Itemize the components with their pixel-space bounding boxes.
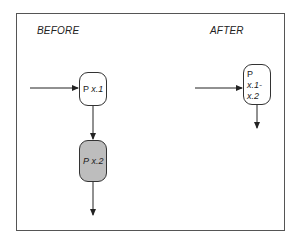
node-p-x2: P x.2	[79, 140, 107, 182]
node-label: P x.2	[83, 156, 104, 167]
node-label: P x.1	[83, 84, 103, 95]
node-p-x1: P x.1	[79, 72, 107, 106]
node-label: P x.1-x.2	[247, 68, 270, 101]
connector-arrows	[0, 0, 303, 243]
node-p-x1-x2: P x.1-x.2	[243, 64, 271, 105]
